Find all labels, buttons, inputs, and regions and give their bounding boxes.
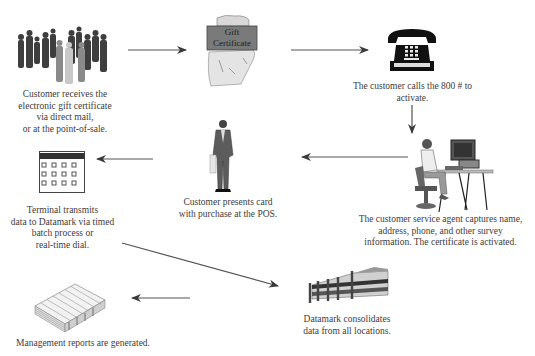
- caption-line: Datamark consolidates: [297, 314, 397, 326]
- caption-line: activate.: [350, 93, 475, 105]
- caption-line: Customer presents card: [170, 197, 286, 209]
- telephone-node: [386, 27, 438, 73]
- telephone-icon: [386, 27, 438, 73]
- crowd-icon: [14, 26, 114, 86]
- badge-line: Gift: [207, 27, 257, 38]
- caption-line: with purchase at the POS.: [170, 209, 286, 221]
- terminal-caption: Terminal transmits data to Datamark via …: [5, 205, 120, 251]
- telephone-caption: The customer calls the 800 # to activate…: [350, 81, 475, 104]
- caption-line: address, phone, and other survey: [348, 226, 533, 238]
- service-agent-icon: [415, 136, 495, 214]
- caption-line: data from all locations.: [297, 326, 397, 338]
- service-agent-node: [415, 136, 495, 214]
- customer-pos-node: [207, 119, 239, 195]
- badge-line: Certificate: [207, 38, 257, 49]
- crowd-node: [14, 26, 114, 86]
- terminal-node: [39, 151, 85, 193]
- caption-line: data to Datamark via timed: [5, 217, 120, 229]
- caption-line: Customer receives the: [10, 89, 120, 101]
- caption-line: information. The certificate is activate…: [348, 237, 533, 249]
- gift-certificate-node: Gift Certificate: [205, 14, 261, 88]
- reports-node: [33, 280, 107, 332]
- terminal-keypad-icon: [39, 151, 85, 193]
- datamark-node: [304, 265, 390, 305]
- service-agent-caption: The customer service agent captures name…: [348, 214, 533, 249]
- crowd-caption: Customer receives the electronic gift ce…: [10, 89, 120, 135]
- businessman-icon: [207, 119, 239, 195]
- caption-line: or at the point-of-sale.: [10, 124, 120, 136]
- datamark-caption: Datamark consolidates data from all loca…: [297, 314, 397, 337]
- building-icon: [304, 265, 390, 305]
- certificate-badge-text: Gift Certificate: [207, 27, 257, 48]
- caption-line: real-time dial.: [5, 240, 120, 252]
- caption-line: electronic gift certificate: [10, 101, 120, 113]
- reports-caption: Management reports are generated.: [8, 338, 158, 350]
- gift-certificate-icon: [205, 14, 261, 88]
- customer-pos-caption: Customer presents card with purchase at …: [170, 197, 286, 220]
- arrow-terminal-to-datamark: [122, 243, 278, 286]
- caption-line: batch process or: [5, 228, 120, 240]
- reports-stack-icon: [33, 280, 107, 332]
- caption-line: The customer calls the 800 # to: [350, 81, 475, 93]
- caption-line: The customer service agent captures name…: [348, 214, 533, 226]
- caption-line: Terminal transmits: [5, 205, 120, 217]
- caption-line: Management reports are generated.: [8, 338, 158, 350]
- caption-line: via direct mail,: [10, 112, 120, 124]
